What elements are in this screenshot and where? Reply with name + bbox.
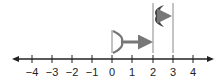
tick-label: 0 — [109, 66, 115, 78]
upper-move-figure — [153, 3, 173, 53]
tick-label: 4 — [190, 66, 196, 78]
tick-label: −1 — [86, 66, 99, 78]
left-arrow-icon — [12, 56, 19, 62]
tick-label: 3 — [170, 66, 176, 78]
lower-move-figure — [112, 30, 150, 53]
bracket-icon — [113, 31, 122, 53]
tick-label: 1 — [129, 66, 135, 78]
tick-label: −3 — [46, 66, 59, 78]
axis — [12, 56, 214, 62]
right-arrow-icon — [207, 56, 214, 62]
tick-labels: −4 −3 −2 −1 0 1 2 3 4 — [26, 66, 196, 78]
tick-label: 2 — [150, 66, 156, 78]
tick-label: −2 — [66, 66, 79, 78]
number-line-diagram: −4 −3 −2 −1 0 1 2 3 4 — [0, 0, 224, 80]
tick-label: −4 — [26, 66, 39, 78]
